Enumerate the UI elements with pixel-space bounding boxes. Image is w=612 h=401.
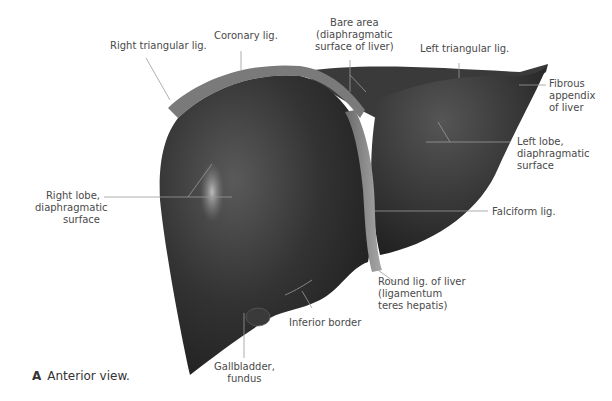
label-fibrous-appendix: Fibrous appendix of liver [549,78,595,114]
right-lobe [160,75,373,375]
label-coronary-ligament: Coronary lig. [214,30,278,42]
figure-caption: AAnterior view. [32,369,130,383]
gallbladder-fundus [246,308,270,326]
label-left-triangular-ligament: Left triangular lig. [420,43,509,55]
liver-anterior-view-figure: Right triangular lig. Coronary lig. Bare… [0,0,612,401]
label-right-lobe: Right lobe, diaphragmatic surface [35,190,100,226]
label-line: appendix [549,90,595,102]
label-line: Gallbladder, [214,361,275,373]
label-left-lobe: Left lobe, diaphragmatic surface [517,136,590,172]
label-line: Fibrous [549,78,595,90]
label-gallbladder-fundus: Gallbladder, fundus [214,361,275,385]
label-line: surface [35,214,100,226]
label-right-triangular-ligament: Right triangular lig. [110,40,207,52]
label-line: diaphragmatic [35,202,100,214]
label-line: Bare area [315,17,394,29]
label-line: Left lobe, [517,136,590,148]
caption-letter: A [32,369,41,383]
label-line: fundus [214,373,275,385]
label-line: (ligamentum [378,288,466,300]
label-line: Right lobe, [35,190,100,202]
label-line: surface [517,160,590,172]
label-line: diaphragmatic [517,148,590,160]
caption-text: Anterior view. [47,369,130,383]
label-round-ligament: Round lig. of liver (ligamentum teres he… [378,276,466,312]
label-inferior-border: Inferior border [289,317,361,329]
label-falciform-ligament: Falciform lig. [492,206,556,218]
label-line: surface of liver) [315,41,394,53]
label-line: teres hepatis) [378,300,466,312]
label-line: (diaphragmatic [315,29,394,41]
label-line: Round lig. of liver [378,276,466,288]
label-bare-area: Bare area (diaphragmatic surface of live… [315,17,394,53]
label-line: of liver [549,102,595,114]
